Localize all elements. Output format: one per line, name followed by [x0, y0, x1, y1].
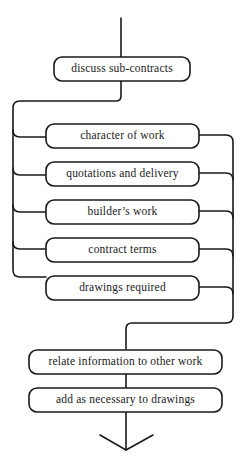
node-label: contract terms — [46, 244, 199, 256]
node-label: add as necessary to drawings — [29, 394, 222, 406]
flowchart: discuss sub-contracts character of work … — [0, 0, 251, 476]
node-label: builder’s work — [46, 206, 199, 218]
node-label: drawings required — [46, 282, 199, 294]
node-label: quotations and delivery — [46, 168, 199, 180]
node-label: character of work — [46, 130, 199, 142]
node-label: relate information to other work — [29, 356, 222, 368]
node-label: discuss sub-contracts — [54, 63, 190, 75]
